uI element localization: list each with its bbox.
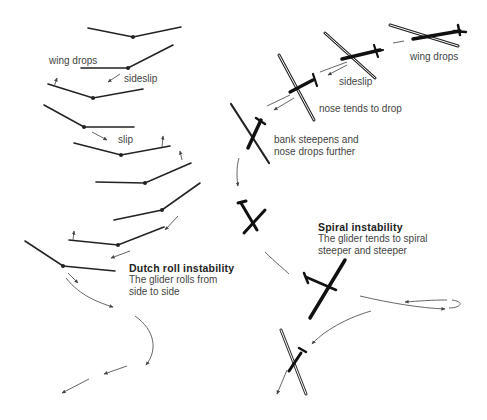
- dutch-roll-title: Dutch roll instability: [129, 262, 234, 274]
- label-sideslip-right: sideslip: [339, 76, 372, 88]
- label-slip: slip: [118, 134, 133, 146]
- wing-front-view-3: [48, 84, 143, 98]
- wing-front-view-9: [25, 241, 115, 271]
- spiral-desc-2: steeper and steeper: [318, 245, 407, 257]
- label-bank-steepens-1: bank steepens and: [274, 134, 359, 146]
- spiral-title: Spiral instability: [318, 221, 403, 233]
- spiral-desc-1: The glider tends to spiral: [318, 233, 428, 245]
- glider-top-view-2: [325, 33, 383, 78]
- wing-front-view-4: [44, 105, 134, 127]
- label-wing-drops-right: wing drops: [410, 51, 458, 63]
- dutch-roll-desc-2: side to side: [129, 286, 180, 298]
- glider-top-view-1: [390, 25, 466, 46]
- label-bank-steepens-2: nose drops further: [274, 146, 355, 158]
- label-sideslip-left: sideslip: [124, 73, 157, 85]
- dutch-roll-desc-1: The glider rolls from: [129, 274, 217, 286]
- label-nose-tends-to-drop: nose tends to drop: [319, 103, 402, 115]
- label-wing-drops-left: wing drops: [49, 55, 97, 67]
- glider-top-view-7: [281, 330, 306, 394]
- glider-top-view-4: [231, 104, 269, 163]
- glider-top-view-6: [304, 260, 345, 318]
- glider-top-view-3: [279, 55, 317, 120]
- wing-front-view-7: [114, 183, 200, 220]
- wing-front-view-6: [96, 163, 191, 183]
- wing-front-view-1: [88, 27, 181, 37]
- wing-front-view-8: [69, 227, 164, 245]
- spiral-arrows: [237, 41, 460, 394]
- glider-top-view-5: [238, 201, 265, 233]
